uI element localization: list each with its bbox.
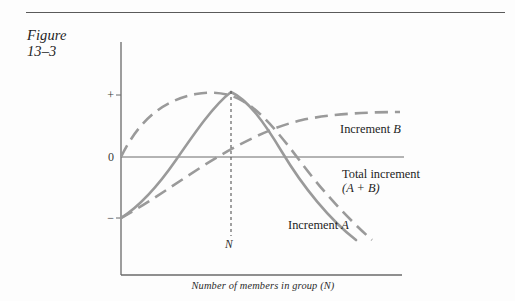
optimum-marker-label: N <box>225 238 233 250</box>
curve-label-increment-b: Increment B <box>340 122 401 136</box>
curve-label-total-increment: Total increment (A + B) <box>342 167 420 195</box>
figure-page: Figure 13–3 + 0 − Increase (+) or loss (… <box>0 0 515 301</box>
y-tick-label-zero: 0 <box>100 150 114 165</box>
x-axis-title: Number of members in group (N) <box>121 280 405 291</box>
curve-label-increment-a: Increment A <box>288 218 349 232</box>
curve-label-total-increment-line2: (A + B) <box>342 181 420 195</box>
curve-label-increment-a-symbol: A <box>341 218 349 232</box>
curve-label-increment-b-text: Increment <box>340 122 390 136</box>
curve-label-increment-a-text: Increment <box>288 218 338 232</box>
y-tick-label-plus: + <box>100 88 114 103</box>
y-tick-label-minus: − <box>100 211 114 226</box>
chart-plot-area <box>0 0 515 301</box>
curve-label-increment-b-symbol: B <box>393 122 401 136</box>
curve-label-total-increment-line1: Total increment <box>342 167 420 181</box>
